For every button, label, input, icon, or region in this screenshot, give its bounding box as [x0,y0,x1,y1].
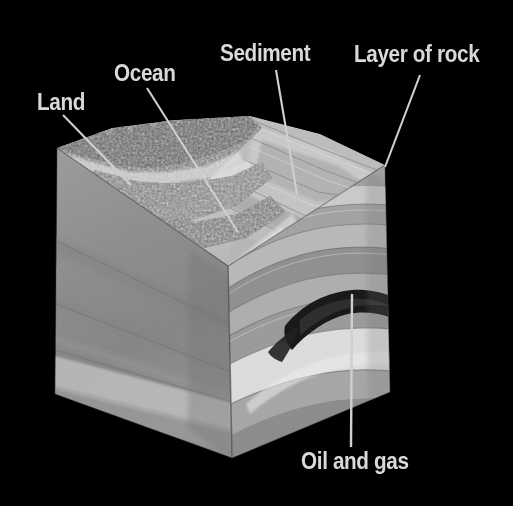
leader-line-oil-and-gas [351,294,352,447]
label-ocean: Ocean [114,62,175,85]
geology-block-diagram-figure: Land Ocean Sediment Layer of rock Oil an… [0,0,513,506]
label-layer-of-rock: Layer of rock [354,43,479,66]
label-sediment: Sediment [220,42,310,65]
leader-line-layer-of-rock [385,75,420,167]
label-land: Land [37,91,85,114]
label-oil-and-gas: Oil and gas [301,450,409,473]
block-diagram-illustration [0,0,513,506]
